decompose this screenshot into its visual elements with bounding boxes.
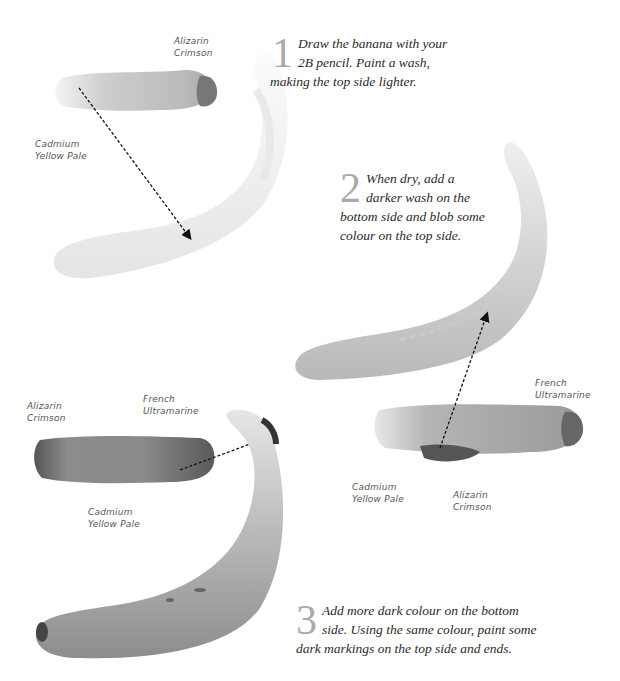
- step2-label-alizarin: Alizarin Crimson: [453, 489, 492, 513]
- step3-label-cadmium: Cadmium Yellow Pale: [88, 506, 140, 530]
- step2-label-cadmium: Cadmium Yellow Pale: [352, 481, 404, 505]
- step1-instructions: 1 Draw the banana with your 2B pencil. P…: [272, 34, 472, 91]
- step1-label-cadmium: Cadmium Yellow Pale: [35, 138, 87, 162]
- step1-label-alizarin: Alizarin Crimson: [174, 35, 213, 59]
- step2-label-french: French Ultramarine: [535, 377, 591, 401]
- step1-number: 1: [272, 35, 293, 71]
- step3-paint-swatch: [34, 436, 214, 483]
- step3-number: 3: [296, 602, 317, 638]
- illustration-canvas: [0, 0, 620, 681]
- step2-number: 2: [340, 170, 361, 206]
- step3-label-alizarin: Alizarin Crimson: [27, 400, 66, 424]
- step2-instructions: 2 When dry, add a darker wash on the bot…: [340, 169, 530, 245]
- step1-paint-swatch: [55, 70, 217, 111]
- step3-label-french: French Ultramarine: [143, 393, 199, 417]
- step3-instructions: 3 Add more dark colour on the bottom sid…: [296, 601, 576, 658]
- step2-paint-swatch: [375, 404, 584, 461]
